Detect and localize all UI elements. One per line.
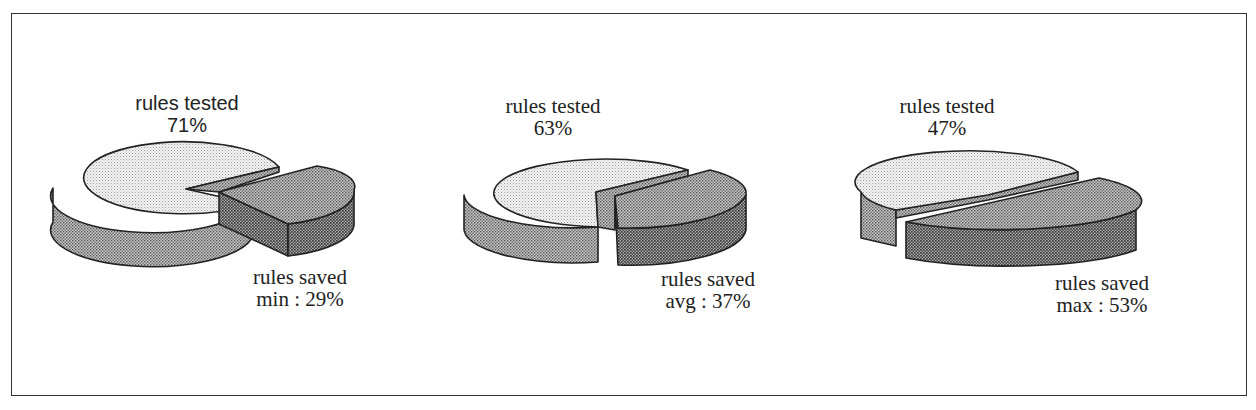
pie-graphic-max	[836, 0, 1256, 410]
pie-chart-avg: rules tested 63% rules saved avg : 37%	[420, 0, 840, 410]
pie-graphic-avg	[420, 0, 840, 410]
saved-label: rules saved max : 53%	[1032, 272, 1172, 316]
saved-label: rules saved avg : 37%	[638, 268, 778, 312]
saved-label: rules saved min : 29%	[230, 266, 370, 310]
pie-graphic-min	[0, 0, 420, 410]
pie-chart-max: rules tested 47% rules saved max : 53%	[836, 0, 1256, 410]
pie-chart-min: rules tested 71% rules saved min : 29%	[0, 0, 420, 410]
